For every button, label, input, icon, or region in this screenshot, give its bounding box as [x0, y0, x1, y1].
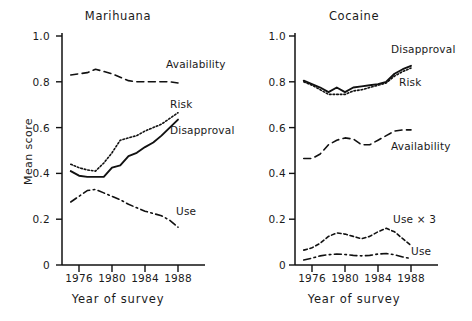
series-availability — [71, 69, 178, 83]
plot-area-left — [0, 0, 236, 321]
panel-cocaine: Cocaine Mean score Year of survey 1.0 0.… — [236, 0, 472, 321]
curves-right — [304, 66, 411, 260]
two-panel-line-chart: Marihuana Mean score Year of survey 1.0 … — [0, 0, 472, 321]
series-disapproval — [304, 66, 411, 92]
series-use — [71, 189, 178, 227]
series-use-3 — [304, 228, 411, 250]
series-disapproval — [71, 120, 178, 177]
curves-left — [71, 69, 178, 227]
plot-area-right — [236, 0, 472, 321]
series-use — [304, 254, 411, 260]
series-risk — [304, 68, 411, 94]
series-risk — [71, 113, 178, 171]
panel-marihuana: Marihuana Mean score Year of survey 1.0 … — [0, 0, 236, 321]
series-availability — [304, 130, 411, 159]
